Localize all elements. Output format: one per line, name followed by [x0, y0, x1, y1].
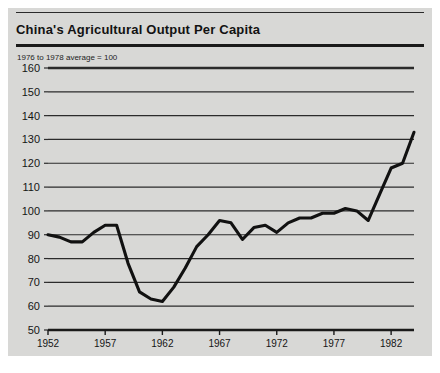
gridlines — [44, 68, 414, 330]
y-axis-tick-label: 50 — [14, 324, 40, 336]
y-axis-tick-label: 150 — [14, 86, 40, 98]
y-axis-tick-label: 110 — [14, 181, 40, 193]
data-series-line — [48, 132, 414, 301]
chart-figure: China's Agricultural Output Per Capita 1… — [8, 8, 432, 356]
y-axis-tick-label: 100 — [14, 205, 40, 217]
y-axis-tick-label: 140 — [14, 110, 40, 122]
plot-area: 5060708090100110120130140150160195219571… — [8, 8, 432, 356]
x-axis-tick-label: 1962 — [142, 338, 182, 349]
x-axis-tick-label: 1957 — [85, 338, 125, 349]
y-axis-tick-label: 80 — [14, 253, 40, 265]
x-axis-tick-label: 1977 — [314, 338, 354, 349]
y-axis-tick-label: 90 — [14, 229, 40, 241]
x-axis-tick-label: 1972 — [257, 338, 297, 349]
y-axis-tick-label: 130 — [14, 133, 40, 145]
plot-svg — [8, 8, 432, 356]
x-axis-tick-label: 1967 — [200, 338, 240, 349]
x-axis-tick-label: 1982 — [371, 338, 411, 349]
y-axis-tick-label: 120 — [14, 157, 40, 169]
x-axis-tick-label: 1952 — [28, 338, 68, 349]
y-axis-tick-label: 60 — [14, 300, 40, 312]
y-axis-tick-label: 160 — [14, 62, 40, 74]
y-axis-tick-label: 70 — [14, 276, 40, 288]
